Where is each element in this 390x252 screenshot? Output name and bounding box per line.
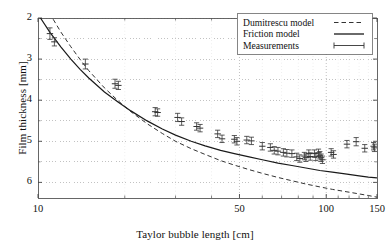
- y-axis-title-wrap: Film thickness [mm]: [16, 18, 32, 198]
- legend-item-dashed: Dumitrescu model: [243, 17, 314, 28]
- x-axis-title: Taylor bubble length [cm]: [0, 228, 390, 240]
- x-tick-label: 10: [23, 203, 53, 214]
- x-tick-label: 50: [224, 203, 254, 214]
- y-tick-label: 5: [16, 134, 32, 145]
- x-tick-label: 150: [362, 203, 390, 214]
- chart-plot-area: [0, 0, 390, 252]
- chart-figure: Taylor bubble length [cm] Film thickness…: [0, 0, 390, 252]
- y-tick-label: 3: [16, 52, 32, 63]
- legend-item-solid: Friction model: [243, 28, 300, 39]
- y-tick-label: 6: [16, 175, 32, 186]
- y-axis-title: Film thickness [mm]: [16, 18, 28, 198]
- x-tick-label: 100: [311, 203, 341, 214]
- y-tick-label: 2: [16, 11, 32, 22]
- legend-item-errorbar: Measurements: [243, 40, 299, 51]
- y-tick-label: 4: [16, 93, 32, 104]
